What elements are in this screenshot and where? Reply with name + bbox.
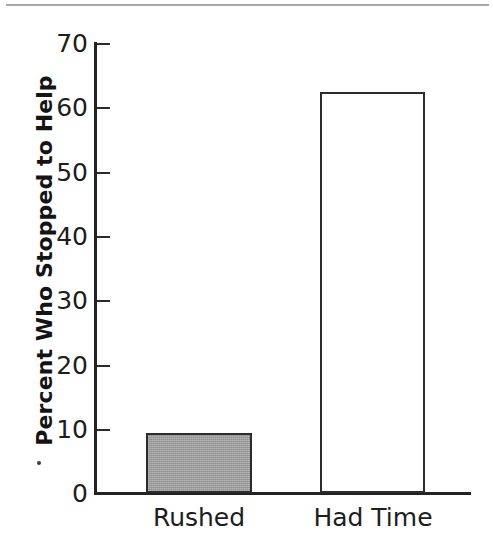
y-tick-mark-50 (97, 172, 110, 174)
bar-chart-plot: 70 60 50 40 30 20 10 0 (0, 0, 493, 547)
y-tick-label-0: 0 (42, 481, 88, 506)
x-label-had-time: Had Time (303, 503, 443, 533)
y-tick-mark-10 (97, 429, 110, 431)
y-tick-mark-60 (97, 107, 110, 109)
y-tick-mark-40 (97, 236, 110, 238)
x-label-rushed: Rushed (139, 503, 259, 533)
bar-rushed[interactable] (146, 433, 252, 493)
y-axis-line (94, 42, 97, 495)
y-tick-mark-20 (97, 365, 110, 367)
y-axis-title: Percent Who Stopped to Help (32, 51, 57, 471)
bar-had-time[interactable] (320, 92, 425, 493)
y-tick-mark-30 (97, 300, 110, 302)
y-tick-label-wrap-0: 0 (36, 481, 88, 506)
scan-speck-artifact (37, 461, 41, 465)
y-tick-mark-70 (97, 43, 110, 45)
figure-canvas: 70 60 50 40 30 20 10 0 (0, 0, 493, 547)
